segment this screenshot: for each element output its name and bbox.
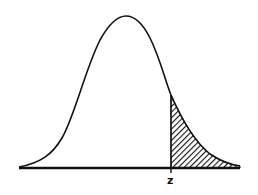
normal-curve-diagram	[0, 0, 258, 195]
z-label: z	[167, 174, 173, 187]
shaded-tail-region	[171, 95, 240, 168]
bell-curve	[19, 16, 240, 167]
